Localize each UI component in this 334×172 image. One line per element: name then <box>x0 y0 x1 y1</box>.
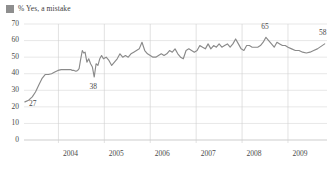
x-axis-tick-label: 2009 <box>292 149 307 158</box>
x-axis-tick-label: 2006 <box>155 149 170 158</box>
y-axis-tick-label: 40 <box>12 68 20 77</box>
x-axis-tick-label: 2005 <box>109 149 124 158</box>
line-chart-plot: 0102030405060702004200520062007200820092… <box>0 0 334 172</box>
y-axis-tick-label: 50 <box>12 52 20 61</box>
x-axis-tick-label: 2004 <box>63 149 78 158</box>
data-point-annotation: 38 <box>90 82 98 91</box>
y-axis-tick-label: 0 <box>15 135 19 144</box>
data-point-annotation: 65 <box>261 22 269 31</box>
y-axis-tick-label: 20 <box>12 102 20 111</box>
y-axis-tick-label: 60 <box>12 35 20 44</box>
data-point-annotation: 27 <box>29 99 37 108</box>
y-axis-tick-label: 70 <box>12 19 20 28</box>
x-axis-tick-label: 2007 <box>201 149 216 158</box>
y-axis-tick-label: 10 <box>12 118 20 127</box>
data-series-line <box>25 37 325 102</box>
x-axis-tick-label: 2008 <box>247 149 262 158</box>
chart-container: % Yes, a mistake 01020304050607020042005… <box>0 0 334 172</box>
data-point-annotation: 58 <box>319 28 327 37</box>
y-axis-tick-label: 30 <box>12 85 20 94</box>
